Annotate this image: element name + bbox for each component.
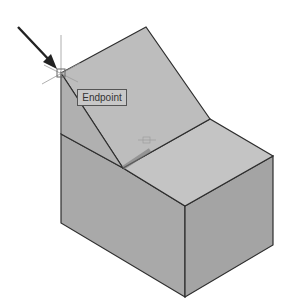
snap-tooltip: Endpoint	[77, 89, 127, 106]
drawing-viewport[interactable]: Endpoint	[0, 0, 290, 307]
model-drawing	[0, 0, 290, 307]
arrow-pointer-icon	[18, 27, 57, 69]
